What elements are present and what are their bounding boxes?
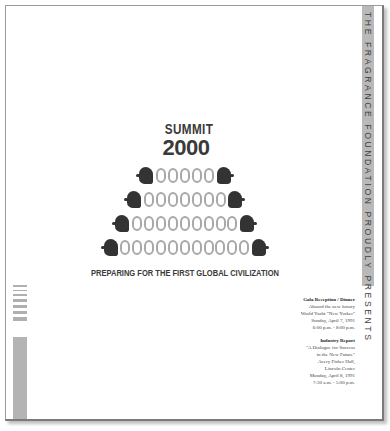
zero-digit	[156, 216, 166, 231]
event-line: "A Dialogue for Success	[245, 344, 355, 351]
pyramid-row	[115, 214, 254, 233]
person-head-icon	[228, 191, 242, 208]
zero-digit	[180, 192, 190, 207]
person-head-icon	[240, 215, 254, 232]
event-line: in the New Future"	[245, 351, 355, 358]
zero-digit	[156, 240, 166, 255]
zero-digit	[192, 168, 202, 183]
zero-digit	[192, 240, 202, 255]
person-head-icon	[139, 167, 153, 184]
person-head-icon	[104, 239, 118, 256]
zero-digit	[156, 192, 166, 207]
zero-digit	[227, 216, 237, 231]
event-line: Monday, April 8, 1991	[245, 372, 355, 379]
event-line: World Yacht "New Yorker"	[245, 310, 355, 317]
zero-digit	[216, 192, 226, 207]
event-gala: Gala Reception / Dinner Aboard the new l…	[245, 296, 355, 331]
left-bar	[13, 337, 27, 419]
event-title: Gala Reception / Dinner	[245, 296, 355, 303]
logo-tagline: PREPARING FOR THE FIRST GLOBAL CIVILIZAT…	[91, 268, 280, 278]
zero-digit	[204, 192, 214, 207]
zero-digit	[204, 168, 214, 183]
person-head-icon	[217, 167, 231, 184]
event-title: Industry Report	[245, 337, 355, 344]
zero-digit	[215, 240, 225, 255]
event-line: Sunday, April 7, 1991	[245, 317, 355, 324]
stripe	[13, 285, 27, 287]
zero-digit	[180, 216, 190, 231]
pyramid-row	[104, 238, 267, 257]
stripe	[13, 299, 27, 302]
stripe	[13, 311, 27, 315]
zero-digit	[180, 240, 190, 255]
logo-year: 2000	[146, 135, 226, 161]
zero-digit	[204, 240, 214, 255]
zero-digit	[192, 216, 202, 231]
zero-digit	[216, 216, 226, 231]
side-banner: THE FRAGRANCE FOUNDATION PROUDLY PRESENT…	[362, 6, 374, 286]
stripe	[13, 305, 27, 308]
zero-digit	[168, 192, 178, 207]
zero-digit	[144, 216, 154, 231]
stripe	[13, 294, 27, 296]
zero-digit	[192, 192, 202, 207]
zero-digit	[132, 240, 142, 255]
pyramid-row	[139, 166, 230, 185]
pyramid-row	[127, 190, 242, 209]
zero-digit	[239, 240, 249, 255]
person-head-icon	[252, 239, 266, 256]
person-head-icon	[115, 215, 129, 232]
event-line: 6:00 p.m. - 8:00 p.m.	[245, 324, 355, 331]
zero-digit	[168, 168, 178, 183]
zero-digit	[168, 240, 178, 255]
zero-digit	[180, 168, 190, 183]
stripe	[13, 290, 27, 292]
event-line: Avery Fisher Hall,	[245, 358, 355, 365]
left-stripes	[13, 285, 27, 324]
zero-digit	[204, 216, 214, 231]
event-details: Gala Reception / Dinner Aboard the new l…	[245, 296, 355, 392]
zero-digit	[227, 240, 237, 255]
stripe	[13, 317, 27, 321]
zero-digit	[120, 240, 130, 255]
zero-digit	[144, 240, 154, 255]
event-line: Aboard the new luxury	[245, 303, 355, 310]
person-head-icon	[127, 191, 141, 208]
zero-digit	[168, 216, 178, 231]
event-line: 7:30 a.m. - 5:00 p.m.	[245, 379, 355, 386]
side-banner-text: THE FRAGRANCE FOUNDATION PROUDLY PRESENT…	[362, 6, 374, 286]
zero-digit	[144, 192, 154, 207]
event-industry-report: Industry Report "A Dialogue for Success …	[245, 337, 355, 386]
zero-digit	[132, 216, 142, 231]
document-page: THE FRAGRANCE FOUNDATION PROUDLY PRESENT…	[5, 5, 384, 421]
zero-digit	[156, 168, 166, 183]
event-line: Lincoln Center	[245, 365, 355, 372]
